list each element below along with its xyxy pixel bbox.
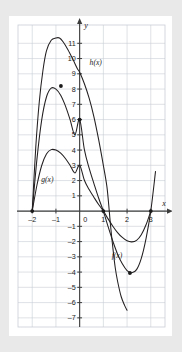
graph-card: –2–11231110987654321–1–2–3–4–5–6–70 f(x)… [9,16,172,336]
data-point-marker [59,84,63,88]
y-tick-label-6: 6 [72,115,76,124]
x-axis-name: x [161,199,166,208]
y-tick-label-2: 2 [72,176,76,185]
y-tick-label--3: –3 [68,252,76,261]
data-point-marker [30,209,34,213]
x-tick-label-2: 2 [125,215,129,224]
y-tick-label--2: –2 [68,237,76,246]
y-tick-label--7: –7 [68,313,76,322]
x-tick-label--1: –1 [52,215,60,224]
y-tick-label-7: 7 [72,100,76,109]
y-tick-label-4: 4 [72,146,76,155]
y-tick-label-11: 11 [68,39,75,48]
screenshot-root: –2–11231110987654321–1–2–3–4–5–6–70 f(x)… [0,0,182,352]
y-tick-label--6: –6 [68,298,76,307]
data-point-marker [128,271,132,275]
y-tick-label--5: –5 [68,283,76,292]
origin-label: 0 [83,215,87,224]
curve-label-hx: h(x) [90,58,103,67]
data-point-marker [101,209,105,213]
data-point-marker [149,209,153,213]
y-tick-label-1: 1 [72,191,76,200]
coordinate-plane: –2–11231110987654321–1–2–3–4–5–6–70 f(x)… [9,16,172,336]
y-tick-label-8: 8 [72,85,76,94]
curve-label-gx: g(x) [41,175,54,184]
y-axis-name: y [83,21,88,30]
y-tick-label--1: –1 [68,222,76,231]
y-tick-label-9: 9 [72,69,76,78]
y-tick-label--4: –4 [68,268,76,277]
x-tick-label--2: –2 [28,215,36,224]
curve-label-fx: f(x) [112,251,123,260]
data-point-marker [78,118,82,122]
